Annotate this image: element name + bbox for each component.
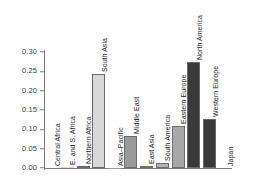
y-axis-tick-mark xyxy=(40,148,44,149)
y-axis-tick-label: 0.05 xyxy=(22,145,40,153)
y-axis-tick: 0.30 xyxy=(22,48,44,56)
bar-category-label: Eastern Europe xyxy=(180,75,187,124)
bar[interactable] xyxy=(203,119,216,168)
y-axis-tick-mark xyxy=(40,52,44,53)
y-axis-tick-label: 0.20 xyxy=(22,87,40,95)
bar-slot[interactable]: Middle East xyxy=(124,40,137,168)
y-axis-tick-mark xyxy=(40,168,44,169)
bar-category-label: E. and S. Africa xyxy=(69,116,76,165)
y-axis-tick: 0.10 xyxy=(22,126,44,134)
bar[interactable] xyxy=(61,167,74,168)
bar-category-label: South Asia xyxy=(101,38,108,72)
bar[interactable] xyxy=(140,166,153,168)
bar-slot[interactable]: Northern Africa xyxy=(77,40,90,168)
bar-category-label: Western Europe xyxy=(212,66,219,117)
bar-slot[interactable]: Asia–Pacific xyxy=(108,40,121,168)
x-axis-line xyxy=(44,168,232,169)
y-axis-tick-mark xyxy=(40,71,44,72)
y-axis-tick-mark xyxy=(40,110,44,111)
y-axis-tick-label: 0.25 xyxy=(22,68,40,76)
bar[interactable] xyxy=(92,74,105,168)
bar[interactable] xyxy=(77,166,90,168)
bar-series: Central AfricaE. and S. AfricaNorthern A… xyxy=(45,40,232,168)
y-axis-tick-mark xyxy=(40,90,44,91)
bar-slot[interactable]: South America xyxy=(156,40,169,168)
bar[interactable] xyxy=(172,126,185,168)
bar-category-label: Northern Africa xyxy=(85,117,92,164)
bar-slot[interactable]: Japan xyxy=(219,40,232,168)
y-axis-tick: 0.20 xyxy=(22,87,44,95)
bar[interactable] xyxy=(156,163,169,168)
y-axis-tick-label: 0.30 xyxy=(22,48,40,56)
bar[interactable] xyxy=(187,62,200,168)
y-axis-tick-label: 0.10 xyxy=(22,126,40,134)
y-axis-tick: 0.00 xyxy=(22,164,44,172)
bar-category-label: East Asia xyxy=(148,134,155,164)
y-axis-tick-label: 0.15 xyxy=(22,106,40,114)
bar-slot[interactable]: Western Europe xyxy=(203,40,216,168)
y-axis-tick-label: 0.00 xyxy=(22,164,40,172)
bar-slot[interactable]: North America xyxy=(187,40,200,168)
bar-slot[interactable]: East Asia xyxy=(140,40,153,168)
y-axis-tick-mark xyxy=(40,129,44,130)
bar-category-label: Middle East xyxy=(133,97,140,134)
bar[interactable] xyxy=(124,136,137,168)
y-axis-tick: 0.05 xyxy=(22,145,44,153)
y-axis-tick: 0.15 xyxy=(22,106,44,114)
bar-chart-figure: 0.300.250.200.150.100.050.00 Central Afr… xyxy=(0,0,253,189)
bar-category-label: South America xyxy=(164,115,171,161)
bar-category-label: North America xyxy=(196,15,203,60)
bar-category-label: Japan xyxy=(227,147,234,166)
bar-slot[interactable]: Central Africa xyxy=(45,40,58,168)
bar-category-label: Central Africa xyxy=(54,123,61,166)
bar-category-label: Asia–Pacific xyxy=(117,127,124,166)
bar-slot[interactable]: Eastern Europe xyxy=(172,40,185,168)
y-axis-tick: 0.25 xyxy=(22,68,44,76)
bar-slot[interactable]: South Asia xyxy=(92,40,105,168)
bar-slot[interactable]: E. and S. Africa xyxy=(61,40,74,168)
